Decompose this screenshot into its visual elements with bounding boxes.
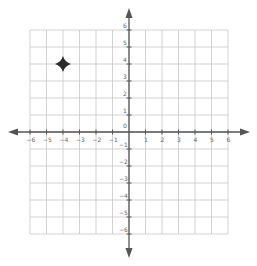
- y-tick-label: 5: [123, 39, 127, 46]
- x-tick-label: −5: [43, 136, 52, 143]
- y-tick-label: 6: [123, 22, 127, 29]
- y-tick-label: 0: [123, 122, 127, 129]
- x-tick-label: 3: [177, 136, 181, 143]
- x-tick-label: 6: [227, 136, 231, 143]
- coordinate-plane: −6−5−4−3−2−1123456 6543210−1−2−3−4−5−6: [0, 0, 257, 266]
- arrow-up-icon: [126, 8, 133, 18]
- y-tick-label: 1: [123, 107, 127, 114]
- axes: [8, 8, 250, 258]
- x-tick-label: −6: [27, 136, 36, 143]
- y-tick-label: 3: [123, 73, 127, 80]
- y-tick-label: 2: [123, 90, 127, 97]
- y-tick-label: −5: [119, 209, 128, 216]
- y-axis-labels: 6543210−1−2−3−4−5−6: [119, 22, 128, 233]
- plotted-points: [55, 56, 71, 72]
- x-tick-label: −1: [109, 136, 118, 143]
- x-tick-label: −4: [60, 136, 69, 143]
- arrow-left-icon: [8, 129, 18, 136]
- arrow-down-icon: [126, 248, 133, 258]
- x-tick-label: −2: [93, 136, 102, 143]
- star-marker-icon: [55, 56, 71, 72]
- y-tick-label: −4: [119, 192, 128, 199]
- y-tick-label: −2: [119, 158, 128, 165]
- x-tick-label: 2: [161, 136, 165, 143]
- y-tick-label: −3: [119, 175, 128, 182]
- x-tick-label: −3: [76, 136, 85, 143]
- y-tick-label: 4: [123, 56, 127, 63]
- x-tick-label: 5: [210, 136, 214, 143]
- y-tick-label: −6: [119, 226, 128, 233]
- y-tick-label: −1: [119, 141, 128, 148]
- x-tick-label: 4: [194, 136, 198, 143]
- x-tick-label: 1: [144, 136, 148, 143]
- arrow-right-icon: [240, 129, 250, 136]
